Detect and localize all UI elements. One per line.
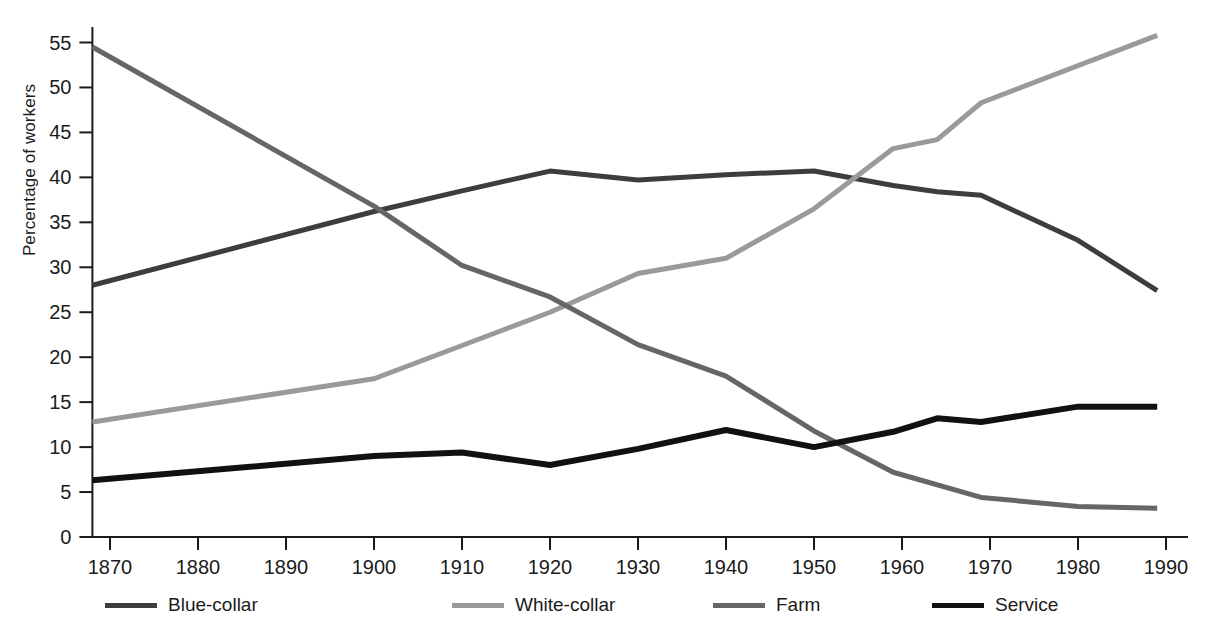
x-axis-tick-label: 1880 [158,557,238,577]
y-axis-tick-label: 5 [29,482,71,502]
legend-swatch-icon [105,603,157,608]
plot-area [0,0,1206,626]
x-axis-tick-label: 1890 [246,557,326,577]
y-axis-tick-label: 55 [29,33,71,53]
series-line-blue-collar [92,171,1157,291]
legend-swatch-icon [932,603,984,608]
chart-legend: Blue-collarWhite-collarFarmService [0,588,1206,622]
y-axis-tick-label: 0 [29,527,71,547]
x-axis-tick-label: 1930 [598,557,678,577]
legend-item-white-collar[interactable]: White-collar [452,588,615,622]
legend-label: White-collar [515,594,615,616]
legend-item-service[interactable]: Service [932,588,1058,622]
legend-label: Service [995,594,1058,616]
y-axis-tick-label: 30 [29,257,71,277]
legend-label: Farm [776,594,820,616]
x-axis-tick-label: 1950 [774,557,854,577]
legend-label: Blue-collar [168,594,258,616]
x-axis-tick-label: 1870 [70,557,150,577]
y-axis-tick-label: 25 [29,302,71,322]
x-axis-tick-label: 1920 [510,557,590,577]
x-axis-tick-label: 1960 [862,557,942,577]
series-line-white-collar [92,35,1157,422]
legend-swatch-icon [452,603,504,608]
y-axis-tick-label: 15 [29,392,71,412]
y-axis-tick-label: 20 [29,347,71,367]
x-axis-tick-label: 1940 [686,557,766,577]
legend-item-farm[interactable]: Farm [713,588,820,622]
series-line-service [92,407,1157,481]
y-axis-tick-label: 10 [29,437,71,457]
x-axis-tick-label: 1970 [950,557,1030,577]
y-axis-tick-label: 35 [29,212,71,232]
x-axis-tick-label: 1900 [334,557,414,577]
line-chart: Percentage of workers 051015202530354045… [0,0,1206,626]
y-axis-tick-label: 45 [29,122,71,142]
x-axis-tick-label: 1990 [1126,557,1206,577]
legend-swatch-icon [713,603,765,608]
y-axis-tick-label: 40 [29,167,71,187]
legend-item-blue-collar[interactable]: Blue-collar [105,588,258,622]
x-axis-tick-label: 1910 [422,557,502,577]
x-axis-tick-label: 1980 [1038,557,1118,577]
y-axis-tick-label: 50 [29,77,71,97]
